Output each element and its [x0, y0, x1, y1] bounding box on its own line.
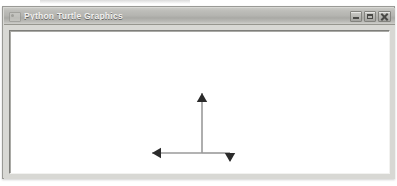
window-controls [350, 11, 391, 22]
maximize-button[interactable] [364, 11, 376, 22]
window-client-area [4, 25, 395, 179]
minimize-button[interactable] [350, 11, 362, 22]
arrowhead-down [225, 153, 235, 162]
screenshot-root: Python Turtle Graphics [0, 0, 397, 186]
arrowhead-left [152, 148, 161, 158]
turtle-cursor-up [197, 93, 207, 102]
close-button[interactable] [378, 11, 391, 22]
canvas-sunken-frame [9, 30, 390, 174]
scan-artifact [40, 0, 190, 4]
turtle-arrowheads [152, 93, 235, 162]
app-icon-dot [11, 14, 14, 17]
window-titlebar[interactable]: Python Turtle Graphics [4, 8, 395, 25]
turtle-app-icon [8, 10, 20, 22]
turtle-pen-strokes [152, 93, 230, 161]
window-title: Python Turtle Graphics [24, 12, 350, 21]
turtle-graphics-window: Python Turtle Graphics [2, 6, 395, 179]
turtle-drawing-canvas[interactable] [10, 31, 389, 173]
